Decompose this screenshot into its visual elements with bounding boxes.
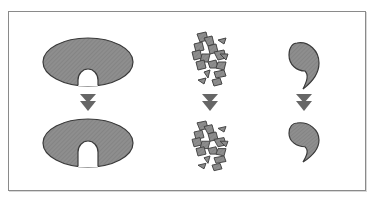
notched-ellipse-top [43,38,133,86]
fragments-top [192,32,228,86]
down-arrow-icon [202,94,218,111]
down-arrow-icon [296,94,312,111]
comma-shape-bottom [289,123,319,162]
fragments-bottom [192,121,228,171]
diagram-canvas [0,0,372,204]
comma-shape-top [289,43,319,89]
down-arrow-icon [80,94,96,111]
notched-ellipse-bottom [43,119,133,167]
